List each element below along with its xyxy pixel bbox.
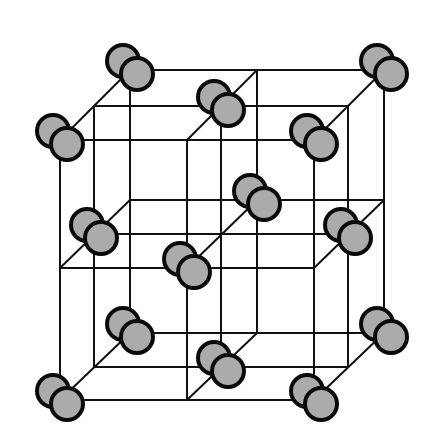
molecule-face-right-center xyxy=(325,209,371,254)
atom-front-icon xyxy=(248,188,280,220)
atom-front-icon xyxy=(51,128,83,160)
molecule-corner-back-bottom-left xyxy=(107,308,153,353)
atom-front-icon xyxy=(85,222,117,254)
molecule-face-bottom-center xyxy=(198,342,244,387)
atom-front-icon xyxy=(339,222,371,254)
molecule-corner-front-top-left xyxy=(37,115,83,160)
molecule-face-top-center xyxy=(198,81,244,126)
molecule-face-back-center xyxy=(234,175,280,220)
atom-front-icon xyxy=(305,388,337,420)
molecule-corner-back-bottom-right xyxy=(361,308,407,353)
atom-front-icon xyxy=(305,128,337,160)
atom-front-icon xyxy=(51,388,83,420)
molecule-corner-front-top-right xyxy=(291,115,337,160)
molecule-corner-front-bottom-left xyxy=(37,375,83,420)
atom-front-icon xyxy=(212,355,244,387)
atom-front-icon xyxy=(375,321,407,353)
atom-front-icon xyxy=(121,58,153,90)
atom-front-icon xyxy=(375,58,407,90)
fcc-lattice-diagram: Face-centered cubic lattice of diatomic … xyxy=(0,0,437,444)
molecule-corner-front-bottom-right xyxy=(291,375,337,420)
molecule-face-front-center xyxy=(164,243,210,288)
molecule-corner-back-top-right xyxy=(361,45,407,90)
lattice-svg xyxy=(0,0,437,444)
atom-front-icon xyxy=(212,94,244,126)
atom-front-icon xyxy=(178,256,210,288)
molecule-face-left-center xyxy=(71,209,117,254)
atom-front-icon xyxy=(121,321,153,353)
molecule-corner-back-top-left xyxy=(107,45,153,90)
